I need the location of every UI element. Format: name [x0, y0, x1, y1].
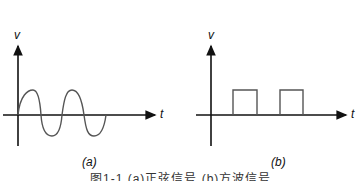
panel-b-y-axis-label: v [208, 28, 214, 42]
panel-a-x-axis-label: t [160, 107, 163, 121]
sine-wave [18, 90, 106, 136]
square-pulses [233, 90, 303, 115]
panel-a-label: (a) [82, 155, 97, 169]
figure-caption: 图1-1 (a)正弦信号 (b)方波信号 [90, 171, 270, 181]
panel-b-axes [196, 46, 346, 146]
figure-canvas [0, 0, 358, 181]
panel-b-x-axis-label: t [351, 107, 354, 121]
panel-b-label: (b) [271, 155, 286, 169]
panel-a-y-axis-label: v [14, 28, 20, 42]
